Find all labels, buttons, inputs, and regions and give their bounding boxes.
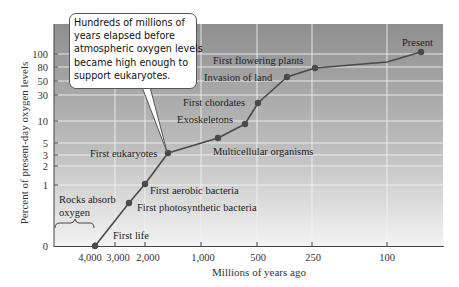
y-tick-label: 100: [32, 49, 48, 60]
x-tick-label: 2,000: [136, 252, 160, 263]
y-axis-title: Percent of present-day oxygen levels: [18, 62, 30, 225]
callout-line: atmospheric oxygen levels: [74, 42, 192, 55]
label-multicellular: Multicellular organisms: [213, 146, 313, 157]
callout-line: Hundreds of millions of: [74, 16, 192, 29]
callout-line: support eukaryotes.: [74, 69, 192, 82]
point-flowering-plants: [312, 65, 318, 71]
label-flowering-plants: First flowering plants: [213, 55, 303, 66]
point-eukaryotes: [165, 150, 171, 156]
y-tick-label: 80: [38, 62, 49, 73]
y-tick-label: 10: [38, 116, 49, 127]
y-tick-label: 1: [43, 180, 48, 191]
callout-line: became high enough to: [74, 56, 192, 69]
label-eukaryotes: First eukaryotes: [90, 148, 157, 159]
point-invasion-of-land: [284, 74, 290, 80]
callout-box: Hundreds of millions of years elapsed be…: [69, 13, 197, 89]
y-tick-label: 50: [38, 76, 49, 87]
y-tick-label: 3: [43, 150, 48, 161]
x-tick-label: 100: [379, 252, 395, 263]
y-tick-label: 5: [43, 138, 48, 149]
label-rocks-absorb: Rocks absorb: [59, 194, 116, 205]
label-exoskeletons: Exoskeletons: [177, 114, 233, 125]
point-first-life: [92, 243, 98, 249]
x-tick-label: 3,000: [106, 252, 130, 263]
point-photosynthetic-bacteria: [126, 200, 132, 206]
y-tick-labels: 100 80 50 30 10 5 3 2 1 0: [32, 49, 48, 253]
x-tick-labels: 4,000 3,000 2,000 1,000 500 250 100: [78, 252, 395, 263]
label-rocks-oxygen: oxygen: [59, 207, 91, 218]
point-multicellular: [215, 135, 221, 141]
label-chordates: First chordates: [183, 97, 245, 108]
label-invasion-of-land: Invasion of land: [204, 72, 273, 83]
callout-line: years elapsed before: [74, 29, 192, 42]
y-tick-label: 2: [43, 161, 48, 172]
x-axis-title: Millions of years ago: [212, 266, 306, 278]
label-photosynthetic-bacteria: First photosynthetic bacteria: [137, 202, 257, 213]
x-tick-label: 4,000: [78, 252, 102, 263]
x-tick-label: 500: [250, 252, 266, 263]
y-tick-label: 30: [38, 90, 49, 101]
y-tick-label: 0: [43, 241, 48, 252]
x-tick-label: 250: [305, 252, 321, 263]
point-present: [418, 49, 424, 55]
label-aerobic-bacteria: First aerobic bacteria: [150, 185, 239, 196]
label-present: Present: [402, 37, 433, 48]
point-aerobic-bacteria: [142, 181, 148, 187]
point-chordates: [255, 100, 261, 106]
label-first-life: First life: [113, 230, 149, 241]
x-tick-label: 1,000: [191, 252, 215, 263]
point-exoskeletons: [242, 121, 248, 127]
